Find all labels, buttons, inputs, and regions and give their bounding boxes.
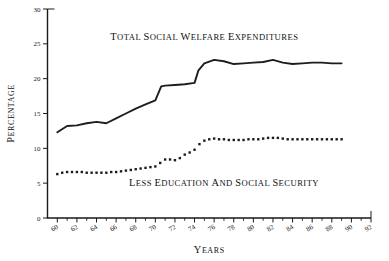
svg-text:82: 82 bbox=[265, 223, 276, 234]
series-annotations: TOTAL SOCIAL WELFARE EXPENDITURESLESS ED… bbox=[110, 31, 319, 188]
svg-text:92: 92 bbox=[363, 223, 374, 234]
svg-text:68: 68 bbox=[128, 223, 139, 234]
svg-text:20: 20 bbox=[34, 75, 42, 83]
svg-text:64: 64 bbox=[89, 223, 100, 234]
svg-text:PERCENTAGE: PERCENTAGE bbox=[5, 84, 16, 143]
y-axis-ticks: 051015202530 bbox=[34, 6, 48, 223]
svg-text:25: 25 bbox=[34, 40, 42, 48]
svg-text:LESS EDUCATION AND SOCIAL SECU: LESS EDUCATION AND SOCIAL SECURITY bbox=[129, 177, 319, 188]
svg-text:60: 60 bbox=[50, 223, 61, 234]
svg-text:78: 78 bbox=[226, 223, 237, 234]
svg-text:80: 80 bbox=[246, 223, 257, 234]
chart-figure: 051015202530 606264666870727476788082848… bbox=[0, 0, 389, 261]
svg-text:84: 84 bbox=[285, 223, 296, 234]
svg-text:88: 88 bbox=[324, 223, 335, 234]
svg-text:10: 10 bbox=[34, 145, 42, 153]
svg-text:5: 5 bbox=[37, 180, 41, 188]
svg-text:86: 86 bbox=[305, 223, 316, 234]
svg-text:90: 90 bbox=[344, 223, 355, 234]
svg-text:YEARS: YEARS bbox=[194, 244, 225, 255]
svg-text:66: 66 bbox=[108, 223, 119, 234]
chart-canvas: 051015202530 606264666870727476788082848… bbox=[0, 0, 389, 261]
svg-text:30: 30 bbox=[34, 6, 42, 14]
svg-text:0: 0 bbox=[37, 215, 41, 223]
svg-text:72: 72 bbox=[167, 223, 178, 234]
svg-text:70: 70 bbox=[148, 223, 159, 234]
svg-text:TOTAL SOCIAL WELFARE EXPENDITU: TOTAL SOCIAL WELFARE EXPENDITURES bbox=[110, 31, 298, 42]
svg-text:62: 62 bbox=[69, 223, 80, 234]
svg-text:74: 74 bbox=[187, 223, 198, 234]
svg-text:76: 76 bbox=[207, 223, 218, 234]
data-series bbox=[56, 60, 343, 175]
svg-text:15: 15 bbox=[34, 110, 42, 118]
x-axis-ticks: 6062646668707274767880828486889092 bbox=[50, 218, 374, 234]
